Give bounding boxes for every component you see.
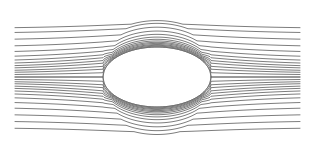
streamline-diagram (0, 0, 313, 155)
streamline (15, 45, 300, 72)
dividing-streamline (15, 47, 300, 77)
streamline (15, 80, 300, 108)
streamline (15, 128, 300, 134)
streamlines-group (15, 21, 300, 135)
streamline (15, 21, 300, 28)
streamline (15, 46, 300, 74)
elliptical-body-outline (103, 47, 211, 107)
dividing-streamline (15, 77, 300, 107)
streamline (15, 82, 300, 109)
